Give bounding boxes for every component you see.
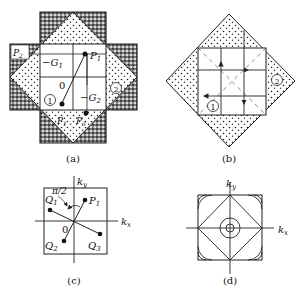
panel-d: ky kx (d) xyxy=(186,178,288,286)
label-q2: Q2 xyxy=(45,240,58,253)
label-origin-a: 0 xyxy=(59,80,65,91)
point-q3 xyxy=(98,232,103,237)
panel-b: 1 2 (b) xyxy=(166,14,295,164)
label-p1-c: P1 xyxy=(88,195,100,208)
point-p1-c xyxy=(83,198,88,203)
zone-2-label-a: 2 xyxy=(113,85,118,94)
point-p1-reduced xyxy=(60,102,65,107)
label-ky-c: ky xyxy=(77,176,88,189)
label-kx-c: kx xyxy=(121,216,131,229)
point-q2 xyxy=(62,239,67,244)
label-kx-d: kx xyxy=(278,224,288,237)
label-origin-c: 0 xyxy=(62,224,68,235)
caption-a: (a) xyxy=(66,153,80,164)
zone-1-label-a: 1 xyxy=(47,97,52,106)
caption-d: (d) xyxy=(223,275,237,286)
point-p3 xyxy=(84,111,89,116)
caption-b: (b) xyxy=(222,153,236,164)
label-ky-d: ky xyxy=(226,178,237,191)
point-p1 xyxy=(83,52,88,57)
point-q1 xyxy=(48,208,53,213)
panel-c: π/2 ky kx 0 P1 Q1 Q2 Q3 (c) xyxy=(35,176,131,286)
panel-a: P1 P2 −G1 −G2 0 P1 P3 1 2 (a) xyxy=(10,12,137,164)
label-angle: π/2 xyxy=(51,186,67,196)
zone-2-label-b: 2 xyxy=(274,77,279,86)
zone-1-label-b: 1 xyxy=(210,103,215,112)
label-q3: Q3 xyxy=(88,240,101,253)
caption-c: (c) xyxy=(67,275,81,286)
brillouin-zone-figure: P1 P2 −G1 −G2 0 P1 P3 1 2 (a) 1 2 (b) xyxy=(0,0,301,293)
